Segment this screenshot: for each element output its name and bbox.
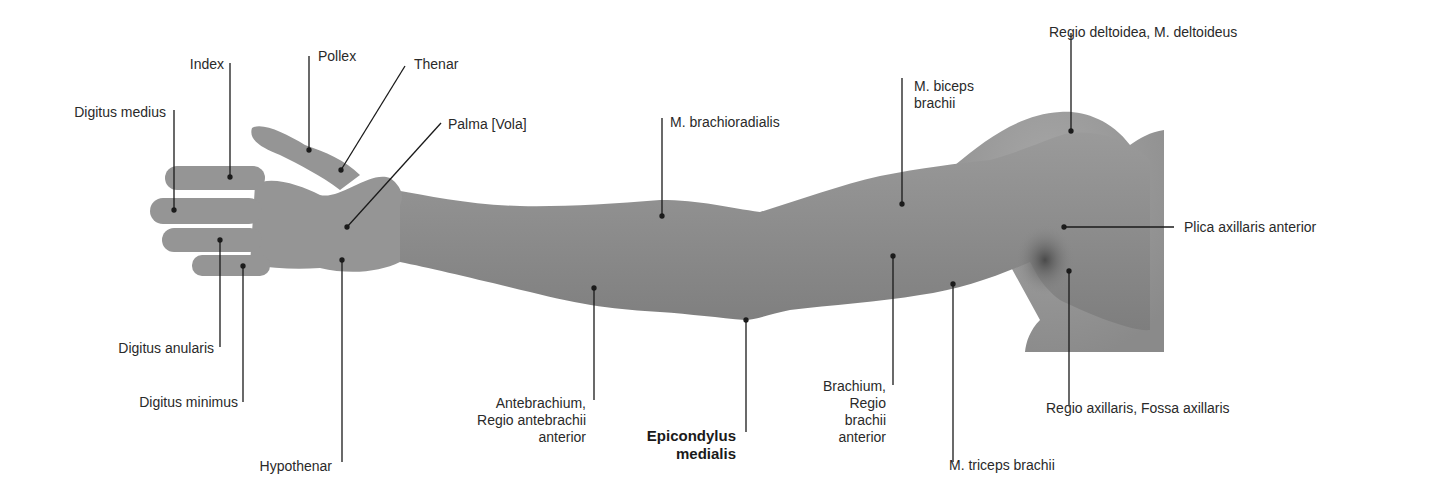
label-antebrachium-line-2: Regio antebrachii <box>420 412 586 429</box>
label-regio-axillaris: Regio axillaris, Fossa axillaris <box>1046 400 1230 417</box>
label-digitus-medius: Digitus medius <box>40 104 166 121</box>
label-epicondylus-line-2: medialis <box>600 445 736 463</box>
label-biceps-line-1: M. biceps <box>914 78 974 95</box>
label-plica-axillaris-anterior: Plica axillaris anterior <box>1184 219 1316 236</box>
label-pollex: Pollex <box>318 48 356 65</box>
finger-index <box>165 166 265 190</box>
label-brachium-line-3: brachii <box>780 412 886 429</box>
label-digitus-minimus: Digitus minimus <box>80 394 238 411</box>
label-brachium: Brachium, Regio brachii anterior <box>780 378 886 446</box>
label-epicondylus-line-1: Epicondylus <box>600 427 736 445</box>
label-epicondylus-medialis: Epicondylus medialis <box>600 427 736 463</box>
label-brachium-line-4: anterior <box>780 429 886 446</box>
label-antebrachium-line-1: Antebrachium, <box>420 395 586 412</box>
label-palma: Palma [Vola] <box>448 116 527 133</box>
finger-little <box>192 255 270 276</box>
label-index: Index <box>170 56 224 73</box>
label-regio-deltoidea: Regio deltoidea, M. deltoideus <box>1049 24 1237 41</box>
label-antebrachium: Antebrachium, Regio antebrachii anterior <box>420 395 586 446</box>
label-m-triceps-brachii: M. triceps brachii <box>949 457 1055 474</box>
label-m-biceps-brachii: M. biceps brachii <box>914 78 974 112</box>
arm-anatomy-figure <box>0 0 1454 498</box>
label-m-brachioradialis: M. brachioradialis <box>670 114 780 131</box>
label-antebrachium-line-3: anterior <box>420 429 586 446</box>
label-brachium-line-2: Regio <box>780 395 886 412</box>
label-digitus-anularis: Digitus anularis <box>60 340 214 357</box>
label-thenar: Thenar <box>414 56 458 73</box>
finger-middle <box>150 198 262 224</box>
label-hypothenar: Hypothenar <box>210 458 332 475</box>
label-brachium-line-1: Brachium, <box>780 378 886 395</box>
finger-ring <box>162 228 262 252</box>
label-biceps-line-2: brachii <box>914 95 974 112</box>
hand <box>150 126 402 276</box>
